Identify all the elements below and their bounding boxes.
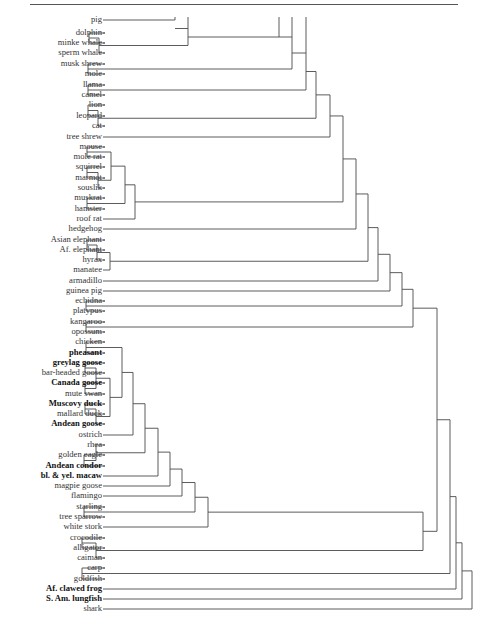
leaf-label: echidna bbox=[75, 295, 102, 305]
leaf-label: Asian elephant bbox=[51, 234, 102, 244]
leaf-label: kangaroo bbox=[70, 316, 102, 326]
leaf-label: mole rat bbox=[74, 151, 102, 161]
leaf-label: mole bbox=[85, 68, 102, 78]
dendrogram-branches bbox=[82, 17, 472, 609]
leaf-label: armadillo bbox=[69, 275, 102, 285]
leaf-label: hedgehog bbox=[69, 223, 102, 233]
leaf-label: dolphin bbox=[76, 27, 102, 37]
leaf-label: pheasant bbox=[69, 347, 102, 357]
leaf-label: Andean goose bbox=[51, 418, 102, 428]
leaf-label: roof rat bbox=[76, 213, 102, 223]
leaf-label: marmot bbox=[75, 172, 102, 182]
leaf-label: S. Am. lungfish bbox=[46, 593, 102, 603]
leaf-label: platypus bbox=[73, 305, 102, 315]
leaf-label: hamster bbox=[75, 203, 102, 213]
leaf-label: golden eagle bbox=[58, 449, 102, 459]
leaf-label: minke whale bbox=[58, 37, 102, 47]
leaf-label: tree sparrow bbox=[59, 511, 102, 521]
leaf-label: squirrel bbox=[76, 161, 102, 171]
leaf-label: carp bbox=[87, 562, 102, 572]
leaf-label: shark bbox=[83, 603, 102, 613]
leaf-label: bl. & yel. macaw bbox=[41, 470, 102, 480]
leaf-label: rhea bbox=[87, 439, 102, 449]
leaf-label: Af. elephant bbox=[60, 244, 102, 254]
leaf-label: flamingo bbox=[71, 490, 102, 500]
leaf-label: manatee bbox=[73, 264, 102, 274]
leaf-label: souslik bbox=[78, 182, 102, 192]
leaf-label: Canada goose bbox=[51, 377, 102, 387]
leaf-label: camel bbox=[81, 89, 102, 99]
leaf-label: musk shrew bbox=[61, 58, 102, 68]
leaf-label: mallard duck bbox=[57, 408, 102, 418]
leaf-label: leopard bbox=[76, 110, 102, 120]
leaf-label: Af. clawed frog bbox=[46, 583, 102, 593]
leaf-label: Muscovy duck bbox=[49, 398, 102, 408]
leaf-label: cat bbox=[92, 120, 102, 130]
leaf-label: pig bbox=[91, 14, 102, 24]
leaf-label: chicken bbox=[75, 336, 102, 346]
leaf-label: opossum bbox=[71, 326, 102, 336]
leaf-label: sperm whale bbox=[58, 47, 102, 57]
leaf-label: alligator bbox=[73, 542, 102, 552]
leaf-label: greylag goose bbox=[53, 357, 102, 367]
leaf-label: starling bbox=[76, 501, 102, 511]
leaf-label: tree shrew bbox=[66, 131, 102, 141]
leaf-label: hyrax bbox=[82, 254, 102, 264]
leaf-label: caiman bbox=[77, 552, 102, 562]
leaf-label: lion bbox=[89, 99, 102, 109]
leaf-label: Andean condor bbox=[45, 460, 102, 470]
leaf-label: crocodile bbox=[70, 532, 102, 542]
leaf-label: mouse bbox=[80, 141, 102, 151]
leaf-label: magpie goose bbox=[55, 480, 103, 490]
leaf-label: guinea pig bbox=[66, 285, 102, 295]
leaf-label: muskrat bbox=[74, 192, 102, 202]
leaf-label: mute swan bbox=[65, 388, 102, 398]
leaf-label: bar-headed goose bbox=[42, 367, 102, 377]
leaf-label: goldfish bbox=[74, 573, 102, 583]
leaf-label: llama bbox=[83, 79, 102, 89]
leaf-label: ostrich bbox=[79, 429, 102, 439]
leaf-label: white stork bbox=[64, 521, 102, 531]
